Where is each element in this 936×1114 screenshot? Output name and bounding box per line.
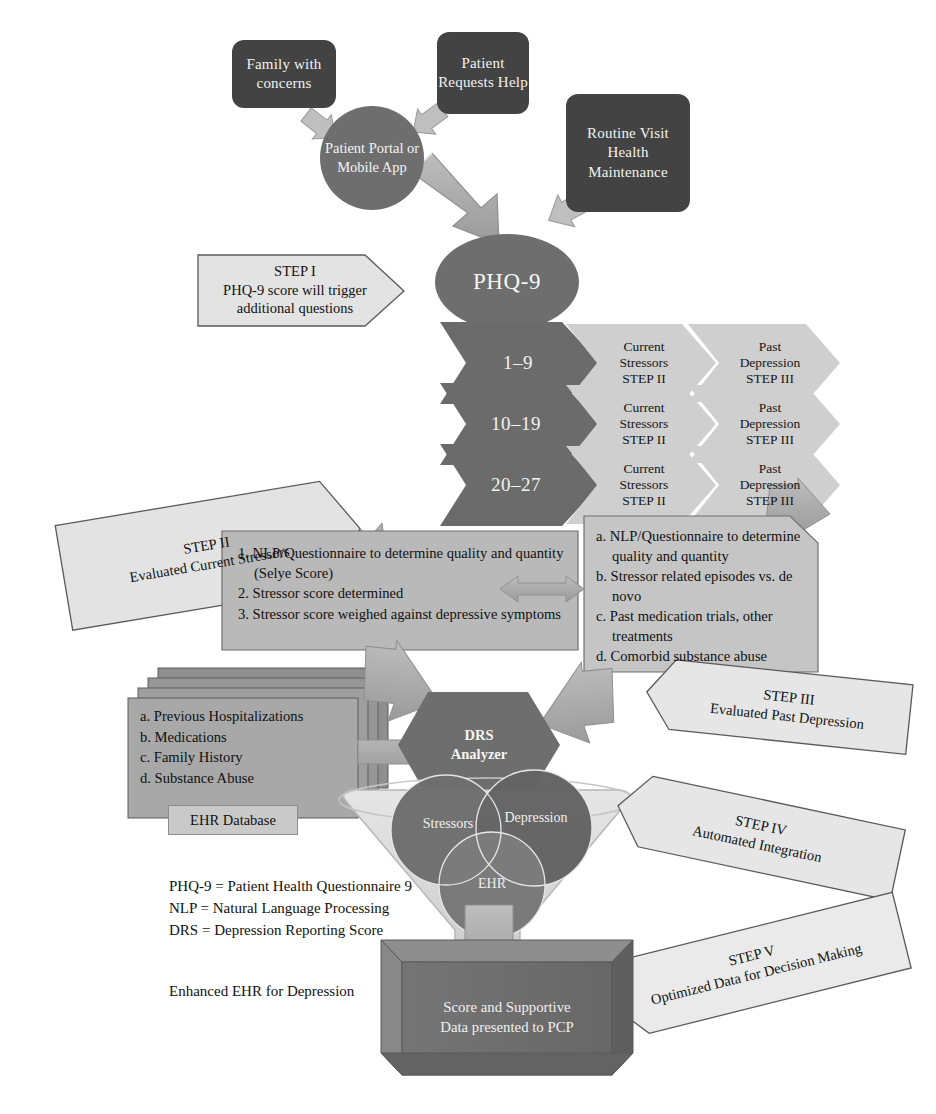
stressor-panel-list: 1. NLP/Questionnaire to determine qualit… [238,544,568,625]
figure-caption: Enhanced EHR for Depression [169,983,354,1000]
score-value-1: 1–9 [503,352,533,374]
branch-a-line2-1: Stressors [620,355,669,371]
callout-step-1 [198,255,404,326]
callout-step-4 [611,771,906,901]
ehr-item-c: c. Family History [140,747,360,768]
branch-a-line3-3: STEP II [622,493,665,509]
phq9-label: PHQ-9 [473,269,541,295]
branch-b-line1-3: Past [759,461,782,477]
ehr-item-d: d. Substance Abuse [140,768,360,789]
source-patient-request-label: Patient Requests Help [437,54,529,92]
stressor-item-3: 3. Stressor score weighed against depres… [238,605,568,625]
drs-analyzer-label: DRS Analyzer [418,718,540,772]
arrow-portal-to-phq9 [411,153,499,244]
ehr-item-b: b. Medications [140,727,360,748]
patient-portal-node[interactable]: Patient Portal or Mobile App [320,106,424,210]
phq9-label-wrap: PHQ-9 [435,258,579,306]
venn-depression-text: Depression [505,810,568,826]
score-value-3: 20–27 [491,474,541,496]
branch-a-line2-2: Stressors [620,416,669,432]
source-routine-visit-label: Routine Visit Health Maintenance [566,124,690,182]
ehr-stack-list: a. Previous Hospitalizations b. Medicati… [140,706,360,789]
branch-a-line3-1: STEP II [622,371,665,387]
branch-a-line3-2: STEP II [622,432,665,448]
final-output-label: Score and Supportive Data presented to P… [404,992,610,1044]
legend-line-2: NLP = Natural Language Processing [169,898,412,920]
score-label-2: 10–19 [460,406,572,442]
drs-line-2: Analyzer [451,745,507,764]
source-family-label: Family with concerns [232,55,336,93]
branch-past-depression-3: Past Depression STEP III [718,456,822,514]
patient-portal-label: Patient Portal or Mobile App [320,139,424,177]
score-label-3: 20–27 [460,467,572,503]
final-output-line-2: Data presented to PCP [440,1018,574,1038]
venn-label-depression: Depression [488,808,584,828]
branch-current-stressors-3: Current Stressors STEP II [596,456,692,514]
score-value-2: 10–19 [491,413,541,435]
callout-step-3 [643,657,913,754]
branch-current-stressors-1: Current Stressors STEP II [596,334,692,392]
branch-a-line1-3: Current [623,461,664,477]
figure-caption-text: Enhanced EHR for Depression [169,983,354,999]
branch-a-line1-2: Current [623,400,664,416]
legend-line-3: DRS = Depression Reporting Score [169,920,412,942]
branch-b-line3-1: STEP III [746,371,794,387]
branch-b-line2-1: Depression [740,355,801,371]
final-output-line-1: Score and Supportive [443,998,570,1018]
depression-panel-list: a. NLP/Questionnaire to determine qualit… [596,527,810,668]
source-patient-request-box[interactable]: Patient Requests Help [437,32,529,114]
depression-item-b: b. Stressor related episodes vs. de novo [596,567,810,606]
drs-line-1: DRS [464,726,493,745]
branch-a-line2-3: Stressors [620,477,669,493]
venn-ehr-text: EHR [478,876,506,892]
venn-label-stressors: Stressors [404,814,492,834]
venn-stressors-text: Stressors [423,816,474,832]
branch-b-line2-2: Depression [740,416,801,432]
stressor-item-2: 2. Stressor score determined [238,584,568,604]
depression-item-a: a. NLP/Questionnaire to determine qualit… [596,527,810,566]
ehr-database-label: EHR Database [168,805,298,835]
branch-past-depression-2: Past Depression STEP III [718,395,822,453]
depression-item-c: c. Past medication trials, other treatme… [596,607,810,646]
legend-line-1: PHQ-9 = Patient Health Questionnaire 9 [169,876,412,898]
abbreviation-legend: PHQ-9 = Patient Health Questionnaire 9 N… [169,876,412,941]
diagram-canvas: Family with concerns Patient Requests He… [0,0,936,1114]
branch-a-line1-1: Current [623,339,664,355]
branch-current-stressors-2: Current Stressors STEP II [596,395,692,453]
branch-b-line2-3: Depression [740,477,801,493]
branch-b-line3-3: STEP III [746,493,794,509]
ehr-database-label-text: EHR Database [190,812,276,829]
ehr-item-a: a. Previous Hospitalizations [140,706,360,727]
branch-b-line3-2: STEP III [746,432,794,448]
branch-past-depression-1: Past Depression STEP III [718,334,822,392]
branch-b-line1-2: Past [759,400,782,416]
callout-step-5 [599,892,911,1041]
stressor-item-1: 1. NLP/Questionnaire to determine qualit… [238,544,568,583]
venn-label-ehr: EHR [456,874,528,894]
score-label-1: 1–9 [466,345,570,381]
branch-b-line1-1: Past [759,339,782,355]
depression-item-d: d. Comorbid substance abuse [596,647,810,667]
source-family-box[interactable]: Family with concerns [232,40,336,108]
source-routine-visit-box[interactable]: Routine Visit Health Maintenance [566,94,690,212]
